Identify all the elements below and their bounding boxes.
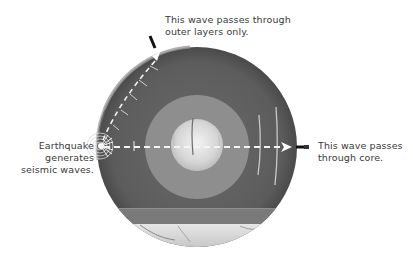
cut-plane (90, 208, 305, 224)
label-core-wave: This wave passes through core. (318, 140, 403, 164)
seismic-diagram: This wave passes through outer layers on… (0, 0, 413, 257)
earth-cross-section (0, 0, 413, 257)
label-outer-layers-wave: This wave passes through outer layers on… (165, 14, 291, 38)
earth-surface (90, 224, 305, 254)
surface-wave-exit-marker (150, 36, 155, 48)
inner-core-layer (171, 119, 223, 171)
label-earthquake: Earthquake generates seismic waves. (0, 140, 94, 176)
globe (90, 47, 305, 254)
